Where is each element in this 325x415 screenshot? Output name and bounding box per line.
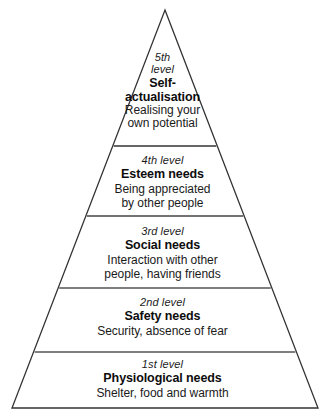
level-1-title: Physiological needs bbox=[0, 371, 325, 386]
pyramid-level-5: 5th level Self- actualisation Realising … bbox=[0, 51, 325, 131]
pyramid-level-3: 3rd level Social needs Interaction with … bbox=[0, 225, 325, 281]
level-2-title: Safety needs bbox=[0, 309, 325, 324]
level-1-ordinal: 1st level bbox=[0, 358, 325, 371]
level-4-title: Esteem needs bbox=[0, 167, 325, 182]
level-5-desc-line-1: Realising your bbox=[0, 104, 325, 117]
level-2-ordinal: 2nd level bbox=[0, 296, 325, 309]
level-3-ordinal: 3rd level bbox=[0, 225, 325, 238]
level-3-desc-line-2: people, having friends bbox=[0, 267, 325, 281]
level-5-title-line-1: Self- bbox=[0, 76, 325, 90]
level-5-desc-line-2: own potential bbox=[0, 117, 325, 130]
level-3-desc-line-1: Interaction with other bbox=[0, 253, 325, 267]
level-1-desc-line-1: Shelter, food and warmth bbox=[0, 386, 325, 400]
level-5-title-line-2: actualisation bbox=[0, 90, 325, 104]
maslow-pyramid-figure: 5th level Self- actualisation Realising … bbox=[0, 0, 325, 415]
level-5-ordinal-second-line: level bbox=[0, 63, 325, 75]
pyramid-level-2: 2nd level Safety needs Security, absence… bbox=[0, 296, 325, 338]
level-4-desc-line-1: Being appreciated bbox=[0, 182, 325, 196]
level-3-title: Social needs bbox=[0, 238, 325, 253]
level-4-desc-line-2: by other people bbox=[0, 196, 325, 210]
pyramid-level-1: 1st level Physiological needs Shelter, f… bbox=[0, 358, 325, 400]
level-2-desc-line-1: Security, absence of fear bbox=[0, 324, 325, 338]
level-5-ordinal: 5th bbox=[0, 51, 325, 63]
level-4-ordinal: 4th level bbox=[0, 154, 325, 167]
pyramid-level-4: 4th level Esteem needs Being appreciated… bbox=[0, 154, 325, 210]
